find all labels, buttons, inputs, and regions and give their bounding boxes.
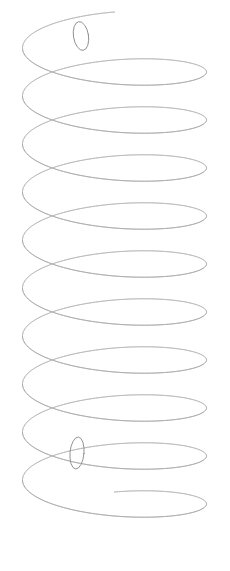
coil-spring-illustration [0,0,230,571]
drawing-canvas [0,0,230,571]
canvas-background [0,0,230,571]
